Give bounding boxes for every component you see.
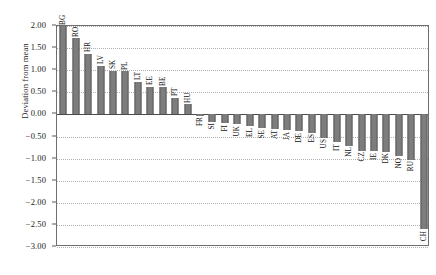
bar-group: PL bbox=[119, 26, 131, 245]
bar-category-label: BG bbox=[59, 14, 67, 24]
bar[interactable] bbox=[383, 114, 390, 152]
bar[interactable] bbox=[147, 87, 154, 115]
bar-group: LV bbox=[94, 26, 106, 245]
bar-category-label: FR bbox=[196, 117, 204, 126]
y-tick-label: −3.00 bbox=[26, 241, 46, 251]
bar[interactable] bbox=[134, 82, 141, 115]
bar-group: HR bbox=[82, 26, 94, 245]
bar[interactable] bbox=[184, 104, 191, 114]
bar-category-label: DE bbox=[295, 133, 303, 143]
bar-category-label: BE bbox=[159, 77, 167, 86]
bar-category-label: IT bbox=[333, 144, 341, 151]
bar[interactable] bbox=[246, 114, 253, 126]
bar[interactable] bbox=[60, 26, 67, 114]
bar-category-label: LT bbox=[134, 72, 142, 80]
y-tick-mark bbox=[52, 246, 56, 247]
bar[interactable] bbox=[284, 114, 291, 130]
y-tick-mark bbox=[52, 91, 56, 92]
bar[interactable] bbox=[234, 114, 241, 124]
bar[interactable] bbox=[346, 114, 353, 145]
bar-group: SI bbox=[206, 26, 218, 245]
y-tick-label: −0.50 bbox=[26, 131, 46, 141]
y-tick-label: 2.00 bbox=[31, 20, 46, 30]
bar-series: BGROHRLVSKPLLTEEBEPTHUFRSIFIUKELSEATJADE… bbox=[57, 26, 428, 245]
bar-group: AT bbox=[268, 26, 280, 245]
gridline bbox=[57, 247, 428, 248]
bar-group: JA bbox=[281, 26, 293, 245]
bar-group: DE bbox=[293, 26, 305, 245]
bar-category-label: LV bbox=[97, 55, 105, 64]
y-tick-label: −2.50 bbox=[26, 219, 46, 229]
bar-category-label: IE bbox=[370, 153, 378, 160]
bar[interactable] bbox=[420, 114, 427, 229]
bar-category-label: US bbox=[320, 139, 328, 148]
bar[interactable] bbox=[172, 98, 179, 115]
bar[interactable] bbox=[109, 71, 116, 115]
y-tick-label: −1.50 bbox=[26, 175, 46, 185]
bar[interactable] bbox=[209, 114, 216, 122]
bar-group: RO bbox=[69, 26, 81, 245]
bar[interactable] bbox=[221, 114, 228, 123]
y-tick-label: −1.00 bbox=[26, 153, 46, 163]
bar[interactable] bbox=[97, 66, 104, 115]
bar-category-label: CZ bbox=[358, 152, 366, 161]
bar[interactable] bbox=[333, 114, 340, 142]
bar-category-label: NL bbox=[345, 147, 353, 157]
bar-category-label: FI bbox=[221, 125, 229, 132]
bar-group: IE bbox=[368, 26, 380, 245]
bar-category-label: AT bbox=[271, 130, 279, 139]
bar[interactable] bbox=[259, 114, 266, 128]
bar-group: UK bbox=[231, 26, 243, 245]
bar-group: HU bbox=[181, 26, 193, 245]
bar[interactable] bbox=[308, 114, 315, 132]
bar-group: NO bbox=[393, 26, 405, 245]
bar-group: RU bbox=[405, 26, 417, 245]
y-tick-label: 1.00 bbox=[31, 64, 46, 74]
y-tick-mark bbox=[52, 69, 56, 70]
bar[interactable] bbox=[122, 71, 129, 114]
bar-category-label: PT bbox=[171, 88, 179, 97]
bar-category-label: UK bbox=[233, 126, 241, 137]
bar-category-label: PL bbox=[121, 61, 129, 70]
bar-group: EE bbox=[144, 26, 156, 245]
bar[interactable] bbox=[296, 114, 303, 131]
bar[interactable] bbox=[72, 38, 79, 114]
bar-group: BE bbox=[156, 26, 168, 245]
chart-figure: Deviation from mean 2.001.501.000.500.00… bbox=[0, 0, 436, 275]
bar[interactable] bbox=[395, 114, 402, 156]
plot-area: BGROHRLVSKPLLTEEBEPTHUFRSIFIUKELSEATJADE… bbox=[56, 25, 429, 246]
bar-group: CZ bbox=[355, 26, 367, 245]
y-tick-mark bbox=[52, 113, 56, 114]
bar[interactable] bbox=[358, 114, 365, 150]
bar-category-label: DK bbox=[382, 153, 390, 164]
bar-group: DK bbox=[380, 26, 392, 245]
bar[interactable] bbox=[85, 54, 92, 115]
bar-group: SK bbox=[107, 26, 119, 245]
bar-group: NL bbox=[343, 26, 355, 245]
bar-category-label: SE bbox=[258, 130, 266, 139]
y-tick-label: 0.00 bbox=[31, 108, 46, 118]
bar[interactable] bbox=[321, 114, 328, 137]
y-tick-mark bbox=[52, 47, 56, 48]
y-tick-mark bbox=[52, 25, 56, 26]
bar[interactable] bbox=[408, 114, 415, 160]
bar[interactable] bbox=[196, 114, 203, 115]
y-tick-mark bbox=[52, 201, 56, 202]
y-tick-label: 1.50 bbox=[31, 42, 46, 52]
bar-category-label: JA bbox=[283, 132, 291, 140]
bar-group: ES bbox=[306, 26, 318, 245]
bar-group: IT bbox=[331, 26, 343, 245]
bar-group: EL bbox=[244, 26, 256, 245]
y-tick-label: 0.50 bbox=[31, 86, 46, 96]
bar-group: LT bbox=[132, 26, 144, 245]
bar-group: FI bbox=[219, 26, 231, 245]
y-tick-mark bbox=[52, 157, 56, 158]
bar-group: PT bbox=[169, 26, 181, 245]
bar-category-label: RO bbox=[72, 27, 80, 37]
bar-category-label: EE bbox=[146, 76, 154, 85]
bar-category-label: SI bbox=[208, 123, 216, 130]
bar[interactable] bbox=[159, 87, 166, 114]
bar[interactable] bbox=[371, 114, 378, 151]
bar[interactable] bbox=[271, 114, 278, 129]
bar-category-label: NO bbox=[395, 158, 403, 169]
